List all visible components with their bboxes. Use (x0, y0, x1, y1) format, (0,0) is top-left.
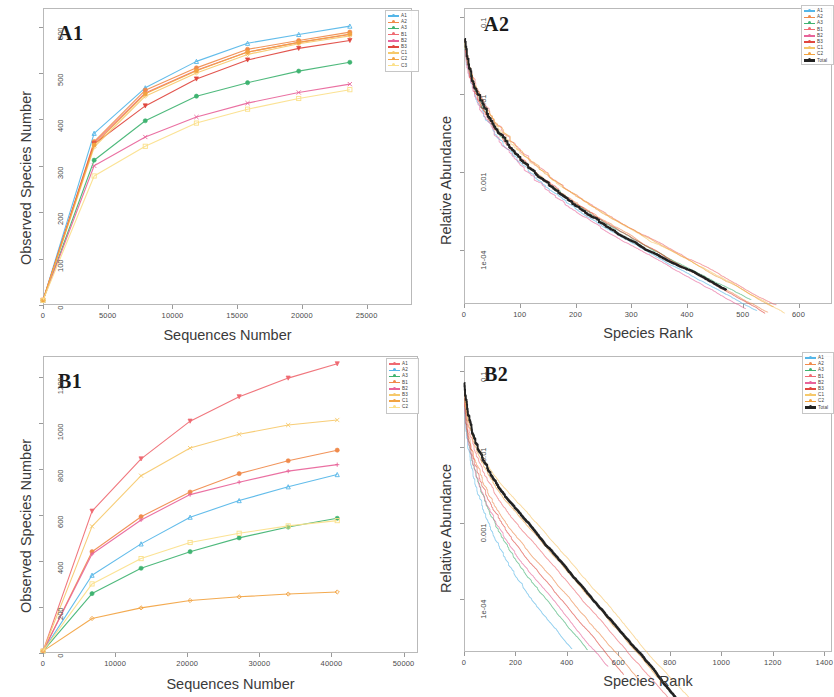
x-tick-label: 0 (41, 659, 45, 668)
legend-color-swatch (388, 59, 399, 61)
legend-color-swatch (388, 22, 399, 24)
x-tickmark (367, 305, 368, 309)
legend-color-swatch (388, 40, 399, 42)
x-tick-label: 500 (736, 310, 749, 319)
legend-color-swatch (805, 394, 816, 396)
legend-color-swatch (804, 23, 815, 25)
y-tickmark (39, 515, 43, 516)
legend-color-swatch (804, 41, 815, 43)
x-tickmark (259, 653, 260, 657)
legend-item-label: A3 (818, 367, 824, 373)
x-tickmark (108, 305, 109, 309)
legend-b1[interactable]: A1A2A3B1B2B3C1C2 (386, 358, 419, 414)
y-tickmark (39, 305, 43, 306)
x-tickmark (721, 652, 722, 656)
legend-color-swatch (804, 35, 815, 37)
legend-item-label: B1 (817, 27, 823, 33)
y-tick-label: 800 (56, 469, 65, 493)
legend-item[interactable]: C3 (388, 63, 417, 69)
y-tickmark (39, 259, 43, 260)
x-tickmark (576, 304, 577, 308)
y-tickmark (39, 73, 43, 74)
legend-item-label: C1 (818, 392, 824, 398)
x-tickmark (43, 653, 44, 657)
y-tick-label: 300 (56, 166, 65, 190)
y-tick-label: 600 (56, 27, 65, 51)
y-tick-label: 500 (56, 73, 65, 97)
x-tick-label: 200 (569, 310, 582, 319)
plot-area-a2 (464, 8, 832, 304)
x-tick-label: 10000 (104, 659, 126, 668)
y-tick-label: 200 (56, 213, 65, 237)
x-tick-label: 50000 (393, 659, 415, 668)
legend-color-swatch (389, 376, 400, 378)
legend-item-label: C2 (402, 404, 408, 410)
x-tick-label: 1400 (816, 658, 834, 667)
y-tickmark (460, 371, 464, 372)
y-tickmark (460, 599, 464, 600)
x-axis-title-b2: Species Rank (464, 673, 832, 689)
legend-b2[interactable]: A1A2A3B1B2B3C1C2Total (802, 352, 834, 414)
y-tickmark (39, 653, 43, 654)
legend-item-label: B3 (402, 392, 408, 398)
legend-item-label: C3 (401, 63, 407, 69)
legend-item-label: Total (817, 58, 827, 64)
y-tick-label: 0.1 (479, 17, 488, 43)
legend-item[interactable]: Total (804, 58, 832, 64)
y-tickmark (39, 166, 43, 167)
y-tick-label: 0.1 (479, 372, 488, 398)
legend-a1[interactable]: A1A2A3B1B2B3C1C2C3 (385, 10, 419, 72)
legend-item-label: A2 (817, 14, 823, 20)
x-tickmark (631, 304, 632, 308)
y-tickmark (460, 447, 464, 448)
legend-color-swatch (388, 34, 399, 36)
legend-item-label: C1 (401, 50, 407, 56)
panel-b2: B2 02004006008001000120014000.10.010.001… (420, 348, 832, 697)
legend-a2[interactable]: A1A2A3B1B2B3C1C2Total (801, 5, 834, 65)
y-tick-label: 400 (56, 561, 65, 585)
plot-area-b2 (464, 356, 832, 652)
legend-color-swatch (389, 394, 400, 396)
legend-color-swatch (388, 28, 399, 30)
y-tickmark (39, 212, 43, 213)
x-tickmark (331, 653, 332, 657)
legend-color-swatch (805, 370, 816, 372)
x-tick-label: 25000 (356, 311, 378, 320)
x-tickmark (187, 653, 188, 657)
x-tickmark (404, 653, 405, 657)
x-tickmark (464, 304, 465, 308)
legend-item-label: Total (818, 405, 828, 411)
legend-item-label: A3 (402, 373, 408, 379)
y-tick-label: 400 (56, 120, 65, 144)
legend-item-label: A2 (402, 367, 408, 373)
y-tick-label: 1e-04 (479, 250, 488, 276)
x-tick-label: 100 (513, 310, 526, 319)
x-tick-label: 10000 (162, 311, 184, 320)
y-tickmark (460, 94, 464, 95)
legend-color-swatch (388, 65, 399, 67)
y-tick-label: 0 (56, 654, 65, 678)
x-tick-label: 600 (612, 658, 625, 667)
legend-color-swatch (388, 46, 399, 48)
x-tickmark (824, 652, 825, 656)
legend-item[interactable]: C2 (389, 404, 417, 410)
x-tickmark (799, 304, 800, 308)
x-tick-label: 20000 (291, 311, 313, 320)
y-axis-title-b2: Relative Abundance (438, 464, 454, 593)
legend-color-swatch (389, 388, 400, 390)
x-tick-label: 400 (560, 658, 573, 667)
legend-item-label: A1 (817, 8, 823, 14)
legend-item-label: A3 (817, 20, 823, 26)
x-tickmark (618, 652, 619, 656)
plot-area-b1 (43, 356, 418, 653)
legend-item-label: B2 (818, 380, 824, 386)
x-tick-label: 1000 (713, 658, 731, 667)
legend-color-swatch (805, 406, 816, 408)
y-tickmark (460, 250, 464, 251)
x-tick-label: 400 (680, 310, 693, 319)
y-tick-label: 0.01 (479, 448, 488, 474)
x-tick-label: 15000 (226, 311, 248, 320)
legend-item-label: B3 (401, 44, 407, 50)
legend-item[interactable]: Total (805, 405, 832, 411)
panel-a1: A1 0500010000150002000025000010020030040… (0, 0, 430, 348)
